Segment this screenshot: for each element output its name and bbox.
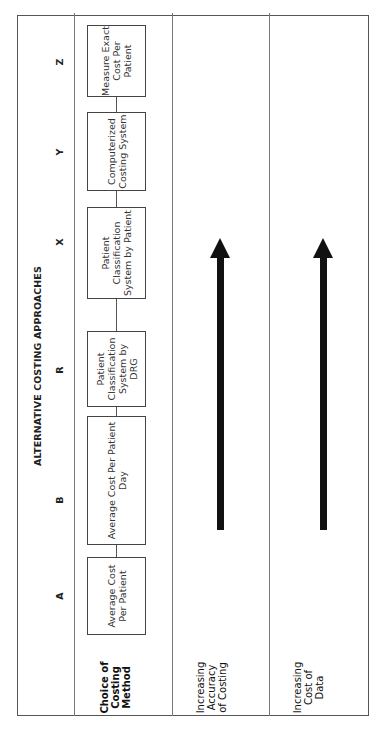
divider-row-2 (269, 13, 270, 716)
connector-b-r (116, 407, 117, 416)
approach-box-x: Patient Classification System by Patient (87, 207, 146, 299)
connector-y-z (116, 97, 117, 112)
connector-r-x (116, 299, 117, 331)
row-label-accuracy: Increasing Accuracy of Costing (195, 659, 228, 716)
cost-arrow-icon (313, 238, 333, 530)
divider-header (74, 13, 75, 716)
approach-letter-z: Z (54, 52, 65, 72)
approach-box-r: Patient Classification System by DRG (87, 331, 146, 407)
approach-box-a: Average Cost Per Patient (87, 557, 146, 635)
approach-box-b: Average Cost Per Patient Day (87, 416, 146, 545)
row-label-cost: Increasing Cost of Data (292, 659, 325, 716)
approach-letter-a: A (54, 586, 65, 606)
divider-row-1 (172, 13, 173, 716)
approach-box-y: Computerized Costing System (87, 112, 146, 191)
approach-letter-x: X (54, 232, 65, 252)
costing-approaches-diagram: ALTERNATIVE COSTING APPROACHES A B R X Y… (17, 13, 367, 716)
approach-letter-y: Y (54, 142, 65, 162)
approach-letter-b: B (54, 490, 65, 510)
diagram-title: ALTERNATIVE COSTING APPROACHES (32, 236, 43, 496)
connector-x-y (116, 191, 117, 207)
approach-letter-r: R (54, 360, 65, 380)
connector-a-b (116, 545, 117, 557)
accuracy-arrow-icon (210, 238, 230, 530)
row-label-choice: Choice of Costing Method (99, 659, 132, 716)
approach-box-z: Measure Exact Cost Per Patient (87, 25, 146, 97)
